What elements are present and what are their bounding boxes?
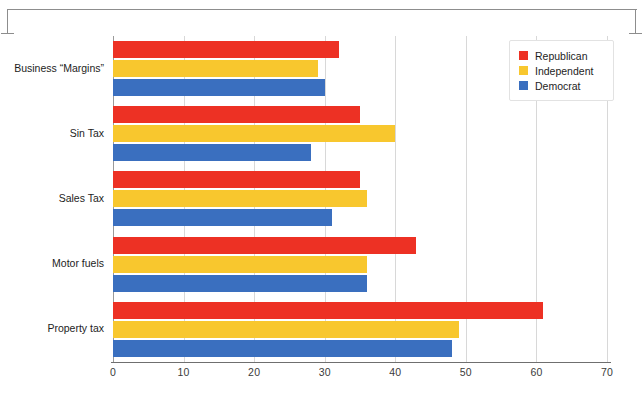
y-axis-label: Property tax [9,322,113,334]
bar-row [113,256,367,273]
legend-swatch-independent-icon [519,66,528,75]
bar-row [113,237,416,254]
y-axis-category-labels: Business “Margins”Sin TaxSales TaxMotor … [0,36,113,362]
x-tick-50: 50 [446,366,486,378]
bar-row [113,79,325,96]
legend-item-republican[interactable]: Republican [519,48,605,63]
bar-independent[interactable] [113,125,395,142]
legend-swatch-democrat-icon [519,81,528,90]
x-tick-70: 70 [587,366,627,378]
bar-group [113,297,607,362]
legend-swatch-republican-icon [519,51,528,60]
bar-democrat[interactable] [113,144,311,161]
bar-independent[interactable] [113,190,367,207]
bar-independent[interactable] [113,256,367,273]
bar-row [113,60,318,77]
bar-group [113,166,607,231]
bar-democrat[interactable] [113,275,367,292]
legend-item-democrat[interactable]: Democrat [519,78,605,93]
bar-row [113,321,459,338]
x-tick-20: 20 [234,366,274,378]
y-axis-label: Business “Margins” [9,62,113,74]
bar-democrat[interactable] [113,209,332,226]
bar-group [113,232,607,297]
x-axis-line [111,362,611,363]
bar-row [113,171,360,188]
legend-label-republican: Republican [535,50,588,62]
bar-row [113,41,339,58]
bar-row [113,125,395,142]
x-tick-10: 10 [164,366,204,378]
legend-item-independent[interactable]: Independent [519,63,605,78]
bar-row [113,302,543,319]
y-axis-label: Motor fuels [9,257,113,269]
bar-democrat[interactable] [113,79,325,96]
x-tick-0: 0 [93,366,133,378]
bar-row [113,106,360,123]
bar-row [113,144,311,161]
bar-republican[interactable] [113,302,543,319]
bar-republican[interactable] [113,237,416,254]
bar-independent[interactable] [113,60,318,77]
bar-row [113,209,332,226]
x-tick-40: 40 [375,366,415,378]
legend-label-democrat: Democrat [535,80,581,92]
chart-page: Business “Margins”Sin TaxSales TaxMotor … [0,0,644,394]
bar-group [113,101,607,166]
bar-republican[interactable] [113,171,360,188]
bar-republican[interactable] [113,106,360,123]
bar-row [113,190,367,207]
bar-democrat[interactable] [113,340,452,357]
bar-republican[interactable] [113,41,339,58]
bar-independent[interactable] [113,321,459,338]
x-tick-60: 60 [516,366,556,378]
legend-label-independent: Independent [535,65,593,77]
chart-legend: Republican Independent Democrat [509,40,614,101]
bar-row [113,340,452,357]
x-tick-30: 30 [305,366,345,378]
y-axis-label: Sin Tax [9,127,113,139]
bar-row [113,275,367,292]
y-axis-label: Sales Tax [9,192,113,204]
